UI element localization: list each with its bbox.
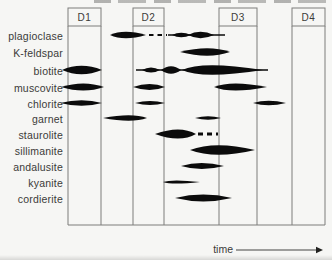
time-axis-label: time (173, 243, 233, 255)
growth-lens-plagioclase (188, 32, 214, 38)
growth-lens-muscovite (133, 84, 165, 90)
scan-edge-shading (0, 255, 332, 260)
time-arrow-head-icon (316, 247, 323, 253)
growth-lens-K-feldspar (180, 48, 230, 55)
phase-label-D2: D2 (142, 12, 156, 23)
growth-lens-muscovite (61, 83, 104, 90)
mineral-label-staurolite: staurolite (0, 129, 63, 141)
mineral-label-kyanite: kyanite (0, 177, 63, 189)
mineral-label-garnet: garnet (0, 113, 63, 125)
growth-lens-sillimanite (190, 145, 255, 155)
growth-lens-kyanite (163, 180, 200, 183)
mineral-label-chlorite: chlorite (0, 98, 63, 110)
growth-lens-chlorite (253, 101, 286, 106)
phase-label-D4: D4 (302, 12, 316, 23)
mineral-label-cordierite: cordierite (0, 193, 63, 205)
growth-lens-garnet (103, 115, 147, 120)
growth-lens-chlorite (135, 101, 165, 105)
mineral-label-K-feldspar: K-feldspar (0, 47, 63, 59)
growth-lens-chlorite (60, 100, 102, 106)
growth-lens-plagioclase (110, 32, 146, 38)
mineral-label-muscovite: muscovite (0, 82, 63, 94)
growth-lens-garnet (195, 116, 221, 119)
phase-label-D3: D3 (231, 12, 245, 23)
growth-lens-biotite (182, 65, 263, 75)
mineral-label-plagioclase: plagioclase (0, 30, 63, 42)
mineral-label-biotite: biotite (0, 65, 63, 77)
growth-lens-muscovite (214, 83, 267, 90)
growth-lens-andalusite (181, 163, 224, 169)
mineral-label-sillimanite: sillimanite (0, 145, 63, 157)
phase-label-D1: D1 (78, 12, 92, 23)
growth-lens-cordierite (175, 195, 232, 202)
growth-lens-staurolite (155, 129, 196, 138)
mineral-label-andalusite: andalusite (0, 161, 63, 173)
growth-lens-biotite (142, 67, 160, 72)
